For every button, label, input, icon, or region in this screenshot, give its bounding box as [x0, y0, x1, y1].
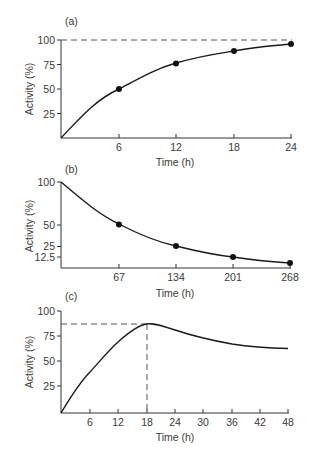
panel-a-ylabel: Activity (%) [23, 63, 35, 116]
panel-a-xtick: 12 [170, 141, 182, 153]
panel-a-ytick: 50 [43, 83, 55, 95]
panel-c-xtick: 12 [112, 416, 124, 428]
panel-a-ytick: 100 [37, 34, 55, 46]
panel-b-x-ticks: 67 134 201 268 [113, 264, 299, 283]
panel-a-y-ticks: 100 75 50 25 [37, 34, 61, 120]
panel-a-ytick: 25 [43, 108, 55, 120]
panel-b-ytick: 50 [43, 219, 55, 231]
panel-c-label: (c) [65, 290, 77, 302]
panel-c-xtick: 42 [254, 416, 266, 428]
panel-a-point [173, 61, 179, 67]
panel-a-point [231, 48, 237, 54]
panel-c-x-ticks: 6 12 18 24 30 36 42 48 [87, 409, 294, 428]
panel-c-ytick: 50 [43, 355, 55, 367]
panel-b: (b) 100 50 25 12.5 67 134 201 268 Time (… [23, 163, 299, 299]
panel-a-point [288, 41, 294, 47]
panel-a-point [116, 86, 122, 92]
panel-c-xtick: 6 [87, 416, 93, 428]
panel-a-xlabel: Time (h) [156, 156, 195, 168]
panel-c-ytick: 100 [37, 305, 55, 317]
panel-c-curve [61, 324, 288, 413]
panel-b-point [287, 260, 293, 266]
panel-c-ytick: 75 [43, 330, 55, 342]
panel-c-xtick: 30 [197, 416, 209, 428]
panel-b-y-ticks: 100 50 25 12.5 [35, 176, 61, 263]
panel-c-xtick: 36 [226, 416, 238, 428]
panel-c-xtick: 18 [141, 416, 153, 428]
panel-b-ytick: 12.5 [35, 251, 56, 263]
panel-b-xtick: 67 [113, 271, 125, 283]
panel-b-point [230, 254, 236, 260]
panel-a: (a) 100 75 50 25 6 12 18 24 Time (h) [23, 15, 297, 168]
panel-a-x-ticks: 6 12 18 24 [116, 134, 297, 153]
panel-a-label: (a) [65, 15, 78, 27]
panel-b-ylabel: Activity (%) [23, 200, 35, 253]
panel-b-xtick: 201 [224, 271, 242, 283]
panel-b-point [173, 243, 179, 249]
panel-b-xtick: 268 [281, 271, 299, 283]
panel-b-xtick: 134 [167, 271, 185, 283]
panel-a-curve [61, 44, 291, 138]
panel-c-xlabel: Time (h) [156, 431, 195, 443]
panel-b-point [116, 222, 122, 228]
panel-b-ytick: 100 [37, 176, 55, 188]
panel-b-xlabel: Time (h) [156, 287, 195, 299]
panel-a-xtick: 18 [228, 141, 240, 153]
panel-b-curve [61, 182, 290, 263]
figure: (a) 100 75 50 25 6 12 18 24 Time (h) [0, 0, 316, 465]
panel-a-ytick: 75 [43, 59, 55, 71]
panel-b-label: (b) [65, 163, 78, 175]
panel-c: (c) 100 75 50 25 6 12 18 24 [23, 290, 294, 443]
panel-c-y-ticks: 100 75 50 25 [37, 305, 61, 392]
panel-a-xtick: 6 [116, 141, 122, 153]
panel-c-ytick: 25 [43, 380, 55, 392]
panel-c-xtick: 48 [282, 416, 294, 428]
panel-c-ylabel: Activity (%) [23, 336, 35, 389]
panel-c-xtick: 24 [169, 416, 181, 428]
panel-a-xtick: 24 [285, 141, 297, 153]
